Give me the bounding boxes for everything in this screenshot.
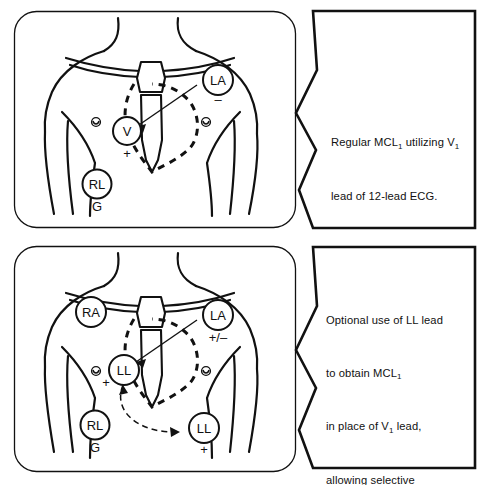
- electrode-la-bottom-polarity: +/–: [209, 330, 228, 345]
- electrode-rl-bottom-ground-label: G: [90, 440, 100, 455]
- bottom-caption-line-4: allowing selective: [326, 472, 478, 485]
- electrode-ra[interactable]: RA: [76, 297, 106, 327]
- bottom-caption-line-2: to obtain MCL1: [326, 365, 478, 384]
- electrode-ll-lower-label: LL: [197, 421, 211, 436]
- electrode-rl-label: RL: [89, 177, 106, 192]
- electrode-ra-label: RA: [82, 305, 100, 320]
- electrode-ll-upper-polarity: +: [102, 375, 110, 390]
- bottom-caption-line-3: in place of V1 lead,: [326, 418, 478, 437]
- ecg-lead-placement-figure: V + LA – RL G: [0, 0, 485, 485]
- bottom-panel-caption: Optional use of LL lead to obtain MCL1 i…: [326, 277, 478, 485]
- top-panel-caption: Regular MCL1 utilizing V1 lead of 12-lea…: [331, 99, 477, 240]
- electrode-la-label: LA: [210, 73, 226, 88]
- electrode-rl-ground-label: G: [92, 199, 102, 214]
- electrode-ll-lower-polarity: +: [200, 442, 208, 457]
- top-caption-line-2: lead of 12-lead ECG.: [331, 188, 477, 206]
- electrode-rl-bottom-label: RL: [87, 418, 104, 433]
- electrode-la-bottom-label: LA: [210, 308, 226, 323]
- electrode-ll-upper-label: LL: [117, 363, 131, 378]
- top-caption-line-1: Regular MCL1 utilizing V1: [331, 134, 477, 153]
- electrode-la-polarity: –: [214, 92, 222, 107]
- electrode-v-label: V: [123, 124, 132, 139]
- electrode-v-polarity: +: [123, 146, 131, 161]
- bottom-caption-line-1: Optional use of LL lead: [326, 312, 478, 330]
